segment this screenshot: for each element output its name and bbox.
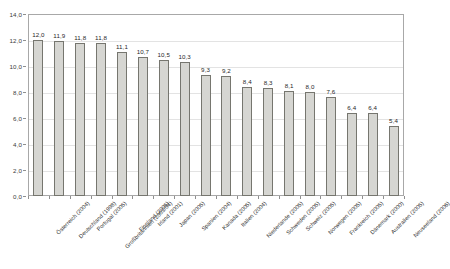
bar[interactable] xyxy=(117,52,127,196)
bar-value-label: 9,3 xyxy=(201,66,210,73)
bar-value-label: 6,4 xyxy=(347,104,356,111)
bar[interactable] xyxy=(54,41,64,196)
y-tick-mark xyxy=(23,92,26,93)
y-tick-mark xyxy=(23,66,26,67)
bar[interactable] xyxy=(180,62,190,196)
x-tick-mark xyxy=(216,196,217,199)
bar-group[interactable]: 9,2 xyxy=(216,14,237,196)
bar-group[interactable]: 6,4 xyxy=(362,14,383,196)
x-axis-labels: Österreich (2004)Deutschland (1998)Portu… xyxy=(28,200,404,269)
x-tick-mark xyxy=(49,196,50,199)
bar-value-label: 12,0 xyxy=(32,31,44,38)
bar[interactable] xyxy=(347,113,357,196)
y-tick-mark xyxy=(23,170,26,171)
x-tick-mark xyxy=(383,196,384,199)
bar[interactable] xyxy=(75,43,85,196)
bar-group[interactable]: 12,0 xyxy=(28,14,49,196)
bar-value-label: 5,4 xyxy=(389,117,398,124)
bar-group[interactable]: 7,6 xyxy=(320,14,341,196)
bar-group[interactable]: 10,3 xyxy=(174,14,195,196)
bar-value-label: 6,4 xyxy=(368,104,377,111)
bar-group[interactable]: 11,8 xyxy=(70,14,91,196)
x-tick-mark xyxy=(258,196,259,199)
bar-group[interactable]: 8,4 xyxy=(237,14,258,196)
y-tick-label: 2,0 xyxy=(13,167,22,174)
x-tick-mark xyxy=(70,196,71,199)
y-tick-label: 0,0 xyxy=(13,193,22,200)
bar[interactable] xyxy=(221,76,231,196)
bar-value-label: 9,2 xyxy=(222,67,231,74)
bar-group[interactable]: 8,3 xyxy=(258,14,279,196)
y-tick-mark xyxy=(23,196,26,197)
y-tick-label: 8,0 xyxy=(13,89,22,96)
x-tick-mark xyxy=(174,196,175,199)
bar[interactable] xyxy=(368,113,378,196)
bar-group[interactable]: 8,0 xyxy=(300,14,321,196)
bar-group[interactable]: 6,4 xyxy=(341,14,362,196)
x-tick-mark xyxy=(341,196,342,199)
x-tick-mark xyxy=(404,196,405,199)
bar-value-label: 10,5 xyxy=(158,51,170,58)
x-tick-mark xyxy=(300,196,301,199)
bar-group[interactable]: 10,7 xyxy=(132,14,153,196)
x-tick-mark xyxy=(362,196,363,199)
bar-value-label: 7,6 xyxy=(326,88,335,95)
bar-value-label: 10,7 xyxy=(137,48,149,55)
bar-value-label: 11,8 xyxy=(74,34,86,41)
bar[interactable] xyxy=(159,60,169,197)
bar-group[interactable]: 11,8 xyxy=(91,14,112,196)
bar-value-label: 8,3 xyxy=(264,79,273,86)
bars-layer: 12,011,911,811,811,110,710,510,39,39,28,… xyxy=(28,14,404,196)
y-tick-label: 10,0 xyxy=(10,63,22,70)
bar-group[interactable]: 9,3 xyxy=(195,14,216,196)
y-tick-mark xyxy=(23,144,26,145)
bar-value-label: 10,3 xyxy=(178,53,190,60)
x-tick-mark xyxy=(279,196,280,199)
x-tick-mark xyxy=(91,196,92,199)
y-tick-label: 12,0 xyxy=(10,37,22,44)
bar[interactable] xyxy=(138,57,148,196)
y-tick-mark xyxy=(23,14,26,15)
x-tick-mark xyxy=(320,196,321,199)
bar-value-label: 11,9 xyxy=(53,32,65,39)
bar[interactable] xyxy=(305,92,315,196)
bar[interactable] xyxy=(96,43,106,196)
y-tick-label: 4,0 xyxy=(13,141,22,148)
bar[interactable] xyxy=(201,75,211,196)
bar-value-label: 11,1 xyxy=(116,43,128,50)
bar-value-label: 8,1 xyxy=(285,82,294,89)
y-tick-mark xyxy=(23,118,26,119)
bar-group[interactable]: 11,1 xyxy=(112,14,133,196)
bar-group[interactable]: 8,1 xyxy=(279,14,300,196)
y-axis: 0,02,04,06,08,010,012,014,0 xyxy=(0,14,26,196)
bar-value-label: 8,4 xyxy=(243,78,252,85)
bar[interactable] xyxy=(326,97,336,196)
bar-group[interactable]: 5,4 xyxy=(383,14,404,196)
x-tick-mark xyxy=(153,196,154,199)
y-tick-label: 6,0 xyxy=(13,115,22,122)
y-tick-label: 14,0 xyxy=(10,11,22,18)
x-tick-mark xyxy=(195,196,196,199)
bar-value-label: 8,0 xyxy=(306,83,315,90)
bar[interactable] xyxy=(389,126,399,196)
x-tick-mark xyxy=(132,196,133,199)
bar-value-label: 11,8 xyxy=(95,34,107,41)
bar[interactable] xyxy=(284,91,294,196)
bar[interactable] xyxy=(242,87,252,196)
y-tick-mark xyxy=(23,40,26,41)
bar[interactable] xyxy=(33,40,43,196)
x-tick-mark xyxy=(28,196,29,199)
bar-group[interactable]: 11,9 xyxy=(49,14,70,196)
x-tick-mark xyxy=(237,196,238,199)
bar[interactable] xyxy=(263,88,273,196)
bar-group[interactable]: 10,5 xyxy=(153,14,174,196)
